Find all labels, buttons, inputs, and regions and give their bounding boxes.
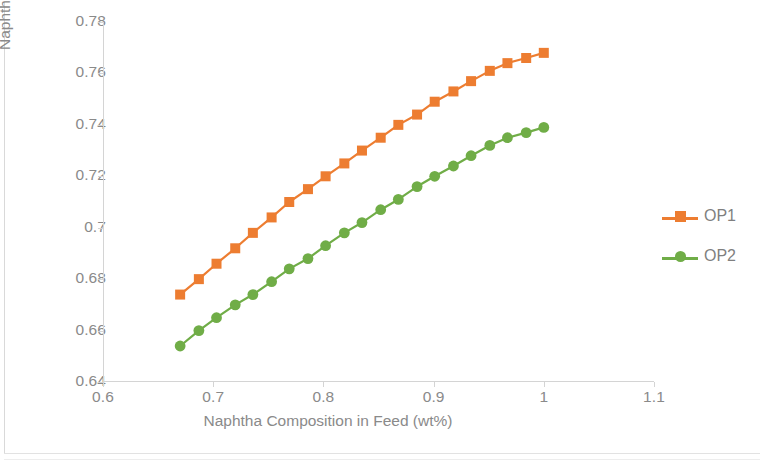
series-line [180,127,544,346]
y-axis-title: Naphtha Recovery (units) [0,0,14,50]
data-point-circle [521,127,532,138]
data-point-circle [538,122,549,133]
y-tick-label: 0.74 [46,115,106,133]
data-series-layer [103,22,654,382]
data-point-circle [320,240,331,251]
x-tick-mark [323,382,324,387]
x-tick-label: 0.7 [183,388,243,406]
data-point-circle [412,181,423,192]
data-point-square [212,259,222,269]
y-tick-label: 0.68 [46,269,106,287]
y-tick-mark [98,228,103,229]
data-point-circle [230,299,241,310]
data-point-circle [375,204,386,215]
data-point-square [376,133,386,143]
legend-entry-op2[interactable]: OP2 [662,238,762,278]
data-point-circle [284,263,295,274]
y-tick-label: 0.7 [46,218,106,236]
data-point-square [267,212,277,222]
x-tick-mark [654,382,655,387]
data-point-square [393,120,403,130]
data-point-square [466,76,476,86]
x-tick-label: 0.8 [293,388,353,406]
x-axis-title-wrap: Naphtha Composition in Feed (wt%) [0,412,769,430]
data-point-square [230,243,240,253]
y-tick-mark [98,125,103,126]
y-tick-mark [98,279,103,280]
figure-border-bottom [4,453,760,454]
y-tick-label: 0.66 [46,321,106,339]
data-point-square [248,228,258,238]
data-point-circle [393,194,404,205]
series-line [180,53,544,295]
legend-entry-op1[interactable]: OP1 [662,198,762,238]
series-op1 [175,48,549,300]
x-tick-label: 1 [514,388,574,406]
x-axis-line [103,381,654,382]
figure-border-bottom-secondary [4,459,760,460]
figure-border-left [4,2,5,454]
y-tick-mark [98,331,103,332]
data-point-square [357,146,367,156]
plot-area [103,22,654,382]
data-point-square [303,184,313,194]
y-tick-mark [98,176,103,177]
data-point-square [339,158,349,168]
data-point-square [175,290,185,300]
data-point-circle [193,325,204,336]
data-point-square [502,58,512,68]
x-tick-mark [213,382,214,387]
data-point-circle [211,312,222,323]
data-point-circle [466,150,477,161]
circle-marker-icon [675,251,686,262]
x-tick-mark [103,382,104,387]
data-point-square [521,53,531,63]
y-tick-mark [98,73,103,74]
data-point-square [430,97,440,107]
x-tick-label: 1.1 [624,388,684,406]
data-point-square [539,48,549,58]
square-marker-icon [675,211,686,222]
y-tick-label: 0.78 [46,12,106,30]
data-point-circle [357,217,368,228]
legend-swatch-op1 [662,209,698,227]
data-point-circle [175,341,186,352]
data-point-circle [502,132,513,143]
data-point-square [485,66,495,76]
y-tick-label: 0.72 [46,166,106,184]
data-point-circle [303,253,314,264]
data-point-circle [339,227,350,238]
data-point-circle [247,289,258,300]
x-tick-mark [434,382,435,387]
y-tick-mark [98,22,103,23]
y-tick-label: 0.76 [46,63,106,81]
data-point-square [412,110,422,120]
data-point-circle [266,276,277,287]
x-tick-label: 0.9 [404,388,464,406]
data-point-square [448,86,458,96]
y-axis-line [103,22,104,382]
x-tick-label: 0.6 [73,388,133,406]
data-point-circle [448,161,459,172]
x-axis-title: Naphtha Composition in Feed (wt%) [204,412,453,430]
x-tick-mark [544,382,545,387]
data-point-circle [484,140,495,151]
data-point-circle [429,171,440,182]
legend-label-op2: OP2 [704,247,736,265]
legend-label-op1: OP1 [704,207,736,225]
legend-swatch-op2 [662,249,698,267]
series-op2 [175,122,549,351]
data-point-square [321,171,331,181]
data-point-square [284,197,294,207]
chart-figure: Naphtha Recovery (units) 0.640.660.680.7… [0,0,769,464]
data-point-square [194,274,204,284]
chart-legend: OP1 OP2 [662,198,762,278]
